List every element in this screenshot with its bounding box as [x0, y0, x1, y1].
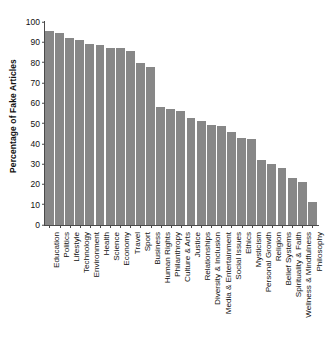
x-axis-tick-label-text: Mysticism [255, 232, 263, 268]
y-axis-tick: 70 [31, 79, 45, 88]
bar[interactable] [298, 182, 307, 225]
x-axis-tick-label: Technology [83, 232, 91, 273]
bar[interactable] [207, 125, 216, 225]
x-axis-tick-label: Philanthropy [174, 232, 182, 277]
x-axis-tick-mark [272, 225, 273, 228]
y-axis-tick: 100 [26, 18, 45, 27]
y-axis-tick: 30 [31, 160, 45, 169]
bar-chart: Percentage of Fake Articles 010203040506… [0, 0, 335, 358]
x-axis-tick-label: Travel [134, 232, 142, 254]
y-axis-tick-label: 20 [31, 180, 42, 189]
x-axis-tick-label: Mysticism [255, 232, 263, 268]
x-axis-tick-label: Wellness & Mindfulness [305, 232, 313, 318]
x-axis-tick-label: Spirituality & Faith [295, 232, 303, 297]
y-axis-tick-label: 30 [31, 160, 42, 169]
y-axis-tick-label: 60 [31, 99, 42, 108]
x-axis-tick-label: Economy [123, 232, 131, 266]
x-axis-tick-mark [191, 225, 192, 228]
x-axis-tick-mark [90, 225, 91, 228]
x-axis-tick-label-text: Education [53, 232, 61, 268]
x-axis-tick-label: Philosophy [316, 232, 324, 272]
x-axis-tick-mark [312, 225, 313, 228]
bar[interactable] [126, 51, 135, 225]
bar[interactable] [176, 111, 185, 225]
y-axis-tick-label: 70 [31, 79, 42, 88]
x-axis-tick-mark [130, 225, 131, 228]
x-axis-tick-mark [282, 225, 283, 228]
y-axis-tick-label: 10 [31, 200, 42, 209]
x-axis-tick-label-text: Politics [63, 232, 71, 258]
x-axis-tick-mark [171, 225, 172, 228]
x-axis-tick-label-text: Environment [93, 232, 101, 277]
y-axis-tick: 90 [31, 38, 45, 47]
bar[interactable] [197, 121, 206, 225]
bar[interactable] [237, 138, 246, 225]
x-axis-tick-mark [221, 225, 222, 228]
x-axis-tick-mark [151, 225, 152, 228]
bar[interactable] [247, 139, 256, 225]
x-axis-tick-label-text: Technology [83, 232, 91, 273]
y-axis-tick: 0 [35, 221, 45, 230]
x-axis-tick-label: Personal Growth [265, 232, 273, 292]
bar[interactable] [308, 202, 317, 225]
x-axis-tick-mark [70, 225, 71, 228]
x-axis-tick-label-text: Philanthropy [174, 232, 182, 277]
x-axis-tick-label: Social Issues [235, 232, 243, 280]
x-axis-tick-mark [120, 225, 121, 228]
x-axis-tick-label: Relationships [204, 232, 212, 281]
bar[interactable] [187, 118, 196, 225]
bar[interactable] [85, 44, 94, 225]
bar[interactable] [75, 40, 84, 225]
bar[interactable] [166, 109, 175, 225]
bar[interactable] [227, 132, 236, 225]
x-axis-tick-label: Health [103, 232, 111, 255]
y-axis-tick: 50 [31, 119, 45, 128]
bar[interactable] [146, 67, 155, 225]
x-axis-tick-mark [231, 225, 232, 228]
x-axis-tick-label-text: Personal Growth [265, 232, 273, 292]
x-axis-tick-label-text: Spirituality & Faith [295, 232, 303, 297]
x-axis-tick-mark [100, 225, 101, 228]
y-axis-tick-label: 100 [26, 18, 42, 27]
x-axis-tick-mark [161, 225, 162, 228]
x-axis-tick-label-text: Human Rights [164, 232, 172, 283]
x-axis-tick-label-text: Religion [275, 232, 283, 261]
bar[interactable] [55, 33, 64, 225]
x-axis-tick-label-text: Lifestyle [73, 232, 81, 262]
x-axis-tick-label-text: Science [113, 232, 121, 261]
x-axis-tick-label-text: Philosophy [316, 232, 324, 272]
x-axis-tick-mark [49, 225, 50, 228]
bar[interactable] [65, 38, 74, 225]
bar[interactable] [136, 63, 145, 225]
y-axis-tick: 80 [31, 58, 45, 67]
bar[interactable] [156, 107, 165, 225]
x-axis-tick-label: Science [113, 232, 121, 261]
x-axis-tick-label-text: Business [154, 232, 162, 265]
y-axis-tick-label: 90 [31, 38, 42, 47]
y-axis-tick: 40 [31, 140, 45, 149]
bar[interactable] [96, 45, 105, 225]
x-axis-tick-mark [211, 225, 212, 228]
bar[interactable] [288, 178, 297, 225]
bar[interactable] [278, 168, 287, 225]
bar[interactable] [267, 164, 276, 225]
bar[interactable] [45, 31, 54, 225]
x-axis-tick-mark [201, 225, 202, 228]
x-axis-tick-label: Politics [63, 232, 71, 258]
plot-area: 0102030405060708090100 [45, 22, 318, 225]
bar[interactable] [116, 48, 125, 225]
x-axis-tick-label: Education [53, 232, 61, 268]
x-axis-tick-mark [252, 225, 253, 228]
y-axis-tick-label: 50 [31, 119, 42, 128]
bar[interactable] [106, 48, 115, 225]
x-axis-tick-label: Diversity & Inclusion [214, 232, 222, 305]
x-axis-tick-label: Religion [275, 232, 283, 261]
x-axis-tick-mark [60, 225, 61, 228]
y-axis-tick: 20 [31, 180, 45, 189]
bar[interactable] [257, 160, 266, 225]
x-axis-tick-label-text: Belief Systems [285, 232, 293, 286]
y-axis-tick-label: 40 [31, 140, 42, 149]
y-axis-tick-label: 80 [31, 58, 42, 67]
bar[interactable] [217, 126, 226, 225]
x-axis-tick-mark [262, 225, 263, 228]
